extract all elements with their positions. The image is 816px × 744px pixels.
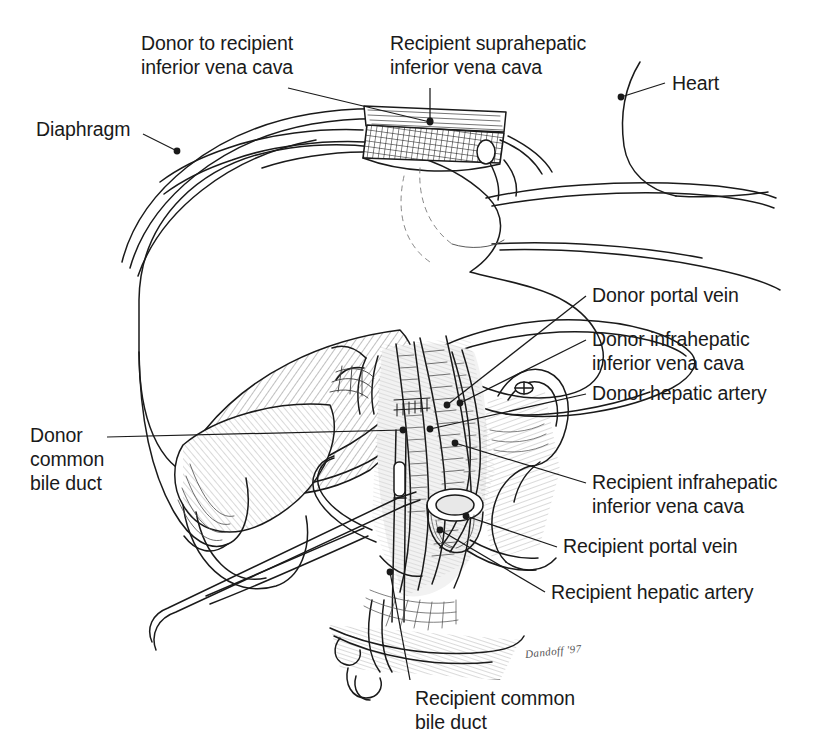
label-line: Donor hepatic artery xyxy=(592,381,767,405)
label-recipient-portal-vein: Recipient portal vein xyxy=(563,534,738,558)
label-line: Recipient common xyxy=(415,686,575,710)
label-line: Donor infrahepatic xyxy=(592,327,750,351)
label-recipient-common-bile-duct: Recipient commonbile duct xyxy=(415,686,575,734)
leader-dot-recipient-suprahepatic-ivc xyxy=(427,118,434,125)
label-line: Donor portal vein xyxy=(592,283,739,307)
caudate-lobe xyxy=(175,395,355,589)
label-line: Recipient hepatic artery xyxy=(551,580,753,604)
leader-dot-recipient-portal-vein xyxy=(463,513,470,520)
leader-dot-donor-hepatic-artery xyxy=(427,426,434,433)
label-donor-hepatic-artery: Donor hepatic artery xyxy=(592,381,767,405)
label-line: inferior vena cava xyxy=(141,55,293,79)
label-line: Recipient suprahepatic xyxy=(390,31,586,55)
label-line: Recipient portal vein xyxy=(563,534,738,558)
inferior-vena-cava-trunk xyxy=(160,130,365,194)
leader-line-diaphragm xyxy=(143,134,177,151)
label-recipient-infrahepatic-ivc: Recipient infrahepaticinferior vena cava xyxy=(592,470,777,518)
label-heart: Heart xyxy=(672,71,719,95)
ivc-right-limb xyxy=(477,136,552,200)
vessel-stump-coil xyxy=(515,382,533,394)
label-donor-common-bile-duct: Donorcommonbile duct xyxy=(30,423,104,495)
label-diaphragm: Diaphragm xyxy=(36,117,130,141)
leader-dot-donor-portal-vein xyxy=(444,402,451,409)
leader-dot-recipient-infrahepatic-ivc xyxy=(452,440,459,447)
leader-dot-diaphragm xyxy=(174,148,181,155)
leader-line-donor-to-recipient-ivc xyxy=(288,88,430,122)
label-line: common xyxy=(30,447,104,471)
label-line: Heart xyxy=(672,71,719,95)
leader-dot-donor-infrahepatic-ivc xyxy=(457,400,464,407)
leader-dot-recipient-hepatic-artery xyxy=(437,527,444,534)
label-donor-infrahepatic-ivc: Donor infrahepaticinferior vena cava xyxy=(592,327,750,375)
label-line: Recipient infrahepatic xyxy=(592,470,777,494)
retractor-instrument xyxy=(206,528,368,604)
liver-transplant-illustration: Donor to recipientinferior vena cavaReci… xyxy=(0,0,816,744)
label-line: Donor to recipient xyxy=(141,31,293,55)
label-donor-portal-vein: Donor portal vein xyxy=(592,283,739,307)
leader-dot-heart xyxy=(618,94,625,101)
leader-dot-donor-common-bile-duct xyxy=(400,427,407,434)
label-line: bile duct xyxy=(30,471,104,495)
leader-dot-recipient-common-bile-duct xyxy=(387,569,394,576)
label-recipient-hepatic-artery: Recipient hepatic artery xyxy=(551,580,753,604)
label-donor-to-recipient-ivc: Donor to recipientinferior vena cava xyxy=(141,31,293,79)
label-recipient-suprahepatic-ivc: Recipient suprahepaticinferior vena cava xyxy=(390,31,586,79)
label-line: inferior vena cava xyxy=(592,494,777,518)
label-line: Diaphragm xyxy=(36,117,130,141)
label-line: Donor xyxy=(30,423,104,447)
label-line: bile duct xyxy=(415,710,575,734)
label-line: inferior vena cava xyxy=(390,55,586,79)
label-line: inferior vena cava xyxy=(592,351,750,375)
